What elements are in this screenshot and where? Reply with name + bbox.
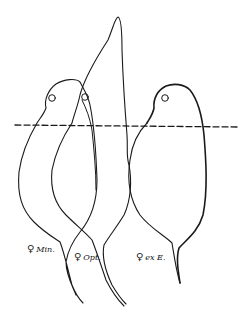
label-opt: ♀Opt.	[74, 251, 101, 262]
outline-opt	[52, 17, 131, 306]
label-min: ♀Min.	[27, 243, 55, 254]
label-exE: ♀ex E.	[136, 251, 165, 262]
outline-drawing	[0, 0, 251, 313]
eye-icon	[162, 95, 169, 102]
outline-min	[19, 80, 97, 303]
eye-icon	[49, 95, 56, 102]
figure: ♀Min. ♀Opt. ♀ex E.	[0, 0, 251, 313]
